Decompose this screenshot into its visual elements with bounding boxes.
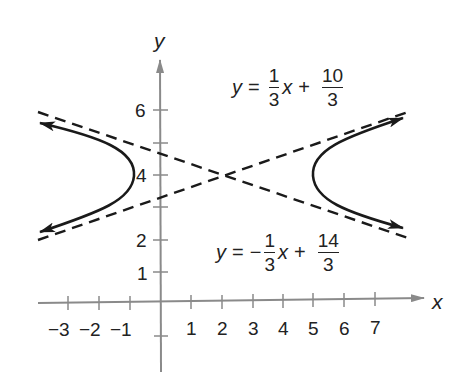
eq-lhs: y bbox=[232, 76, 242, 99]
eq-equals: = bbox=[232, 241, 244, 264]
y-tick-label-1: 1 bbox=[137, 264, 148, 283]
x-tick-label: −1 bbox=[110, 320, 132, 339]
hyperbola-left-branch bbox=[40, 123, 134, 176]
numerator: 1 bbox=[269, 66, 280, 85]
y-tick-label-6: 6 bbox=[135, 101, 146, 120]
denominator: 3 bbox=[327, 90, 338, 109]
denominator: 3 bbox=[323, 255, 334, 274]
x-tick-label: 3 bbox=[248, 319, 259, 338]
hyperbola-right-branch bbox=[313, 118, 403, 176]
hyperbola-right-branch-lower bbox=[313, 176, 403, 228]
eq-var: x bbox=[282, 76, 292, 99]
x-tick-label: 7 bbox=[370, 318, 381, 337]
eq-plus: + bbox=[298, 76, 310, 99]
x-tick-label: −3 bbox=[48, 320, 70, 339]
eq-var: x bbox=[278, 241, 288, 264]
eq-lhs: y bbox=[216, 241, 226, 264]
x-tick-label: −2 bbox=[79, 320, 101, 339]
fraction-slope: 1 3 bbox=[269, 66, 280, 109]
x-axis bbox=[38, 298, 424, 303]
hyperbola-plot bbox=[0, 0, 470, 386]
x-tick-label: 6 bbox=[339, 319, 350, 338]
fraction-slope: 1 3 bbox=[264, 231, 275, 274]
x-tick-label: 2 bbox=[217, 319, 228, 338]
y-axis bbox=[160, 60, 161, 372]
eq-sign: − bbox=[250, 241, 262, 264]
fraction-intercept: 14 3 bbox=[318, 231, 339, 274]
denominator: 3 bbox=[264, 255, 275, 274]
x-axis-label: x bbox=[432, 291, 443, 312]
x-tick-label: 5 bbox=[308, 319, 319, 338]
x-tick-label: 4 bbox=[278, 319, 289, 338]
y-tick-label-2: 2 bbox=[136, 231, 147, 250]
eq-equals: = bbox=[248, 76, 260, 99]
x-ticks bbox=[68, 292, 375, 310]
y-axis-label: y bbox=[154, 30, 165, 51]
numerator: 14 bbox=[318, 231, 339, 250]
eq-plus: + bbox=[294, 241, 306, 264]
x-tick-label: 1 bbox=[186, 319, 197, 338]
numerator: 1 bbox=[264, 231, 275, 250]
hyperbola-left-branch-lower bbox=[40, 176, 134, 232]
y-tick-label-4: 4 bbox=[136, 166, 147, 185]
equation-lower-asymptote: y = − 1 3 x + 14 3 bbox=[216, 231, 342, 274]
numerator: 10 bbox=[322, 66, 343, 85]
fraction-intercept: 10 3 bbox=[322, 66, 343, 109]
denominator: 3 bbox=[269, 90, 280, 109]
equation-upper-asymptote: y = 1 3 x + 10 3 bbox=[232, 66, 346, 109]
